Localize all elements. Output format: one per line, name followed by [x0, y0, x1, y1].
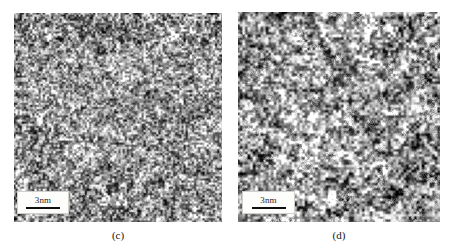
figure-root: 3nm (c) 3nm (d) [0, 0, 454, 250]
scale-bar-label-c: 3nm [35, 196, 51, 205]
scale-bar-c: 3nm [17, 191, 69, 214]
panel-caption-d: (d) [238, 229, 440, 241]
panel-caption-c: (c) [14, 229, 222, 241]
scale-bar-rule-d [252, 207, 286, 209]
micrograph-panel-c: 3nm [14, 13, 222, 222]
micrograph-panel-d: 3nm [238, 12, 440, 222]
scale-bar-d: 3nm [242, 191, 295, 214]
scale-bar-label-d: 3nm [260, 196, 276, 205]
scale-bar-rule-c [26, 207, 60, 209]
